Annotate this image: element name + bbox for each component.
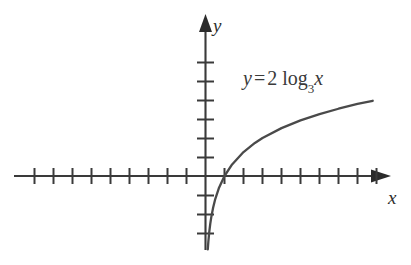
equation-annotation: y=2 log3x: [243, 68, 323, 88]
y-axis-arrowhead: [199, 14, 212, 32]
equation-function: log: [282, 67, 308, 89]
coordinate-plane-svg: [0, 0, 411, 265]
equation-base: 3: [308, 81, 315, 96]
equation-lhs: y: [243, 67, 252, 89]
y-axis-label: y: [213, 16, 221, 35]
equation-argument: x: [314, 67, 323, 89]
equation-equals: =: [252, 67, 267, 89]
math-figure-logarithmic-graph: y x y=2 log3x: [0, 0, 411, 265]
x-axis-arrowhead: [371, 170, 391, 183]
x-axis-label: x: [388, 188, 396, 207]
equation-coefficient: 2: [267, 67, 277, 89]
